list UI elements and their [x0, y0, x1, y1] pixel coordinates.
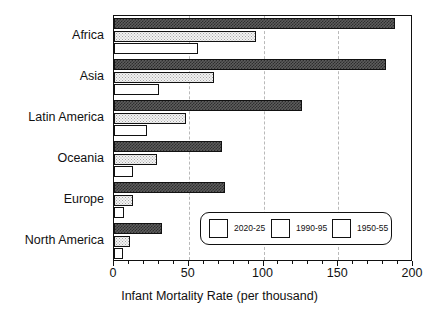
x-tick-label-0: 0: [93, 267, 133, 280]
category-label-latin-america: Latin America: [28, 111, 104, 124]
category-label-africa: Africa: [72, 29, 104, 42]
bar-oceania-2020-25: [114, 166, 133, 177]
x-tick-190: [397, 261, 398, 264]
x-tick-90: [248, 261, 249, 264]
x-tick-30: [158, 261, 159, 264]
x-tick-160: [352, 261, 353, 264]
x-axis-title: Infant Mortality Rate (per thousand): [0, 289, 439, 303]
legend-label-1990-95: 1990-95: [296, 223, 327, 233]
x-tick-label-50: 50: [168, 267, 208, 280]
x-tick-60: [203, 261, 204, 264]
bar-europe-1950-55: [114, 182, 225, 193]
bar-group: [114, 57, 411, 98]
bar-north-america-1990-95: [114, 236, 130, 247]
category-label-asia: Asia: [80, 70, 104, 83]
bar-group: [114, 139, 411, 180]
x-tick-label-100: 100: [243, 267, 283, 280]
x-tick-120: [292, 261, 293, 264]
legend: 2020-251990-951950-55: [200, 212, 392, 245]
bar-asia-2020-25: [114, 84, 159, 95]
bar-north-america-1950-55: [114, 223, 162, 234]
x-tick-40: [173, 261, 174, 264]
legend-label-2020-25: 2020-25: [234, 223, 265, 233]
category-label-north-america: North America: [25, 234, 104, 247]
bar-group: [114, 98, 411, 139]
infant-mortality-bar-chart: AfricaAsiaLatin AmericaOceaniaEuropeNort…: [0, 0, 439, 318]
legend-swatch-2020-25: [209, 219, 228, 238]
bar-africa-1950-55: [114, 18, 395, 29]
bar-africa-1990-95: [114, 31, 256, 42]
category-label-europe: Europe: [64, 193, 104, 206]
legend-label-1950-55: 1950-55: [357, 223, 388, 233]
x-tick-70: [218, 261, 219, 264]
bar-latin-america-1990-95: [114, 113, 186, 124]
x-tick-140: [322, 261, 323, 264]
bar-oceania-1950-55: [114, 141, 222, 152]
x-tick-20: [143, 261, 144, 264]
legend-swatch-1990-95: [271, 219, 290, 238]
bar-europe-1990-95: [114, 195, 133, 206]
legend-swatch-1950-55: [332, 219, 351, 238]
bar-north-america-2020-25: [114, 248, 123, 259]
x-tick-110: [277, 261, 278, 264]
bar-africa-2020-25: [114, 43, 198, 54]
bar-latin-america-1950-55: [114, 100, 302, 111]
category-label-oceania: Oceania: [57, 152, 104, 165]
bar-latin-america-2020-25: [114, 125, 147, 136]
bar-europe-2020-25: [114, 207, 124, 218]
bar-group: [114, 16, 411, 57]
x-tick-170: [367, 261, 368, 264]
x-tick-80: [233, 261, 234, 264]
x-tick-130: [307, 261, 308, 264]
bar-asia-1950-55: [114, 59, 386, 70]
category-axis-labels: AfricaAsiaLatin AmericaOceaniaEuropeNort…: [0, 15, 110, 261]
bar-oceania-1990-95: [114, 154, 157, 165]
x-tick-10: [128, 261, 129, 264]
x-tick-label-200: 200: [392, 267, 432, 280]
x-tick-180: [382, 261, 383, 264]
x-tick-label-150: 150: [317, 267, 357, 280]
bar-asia-1990-95: [114, 72, 214, 83]
